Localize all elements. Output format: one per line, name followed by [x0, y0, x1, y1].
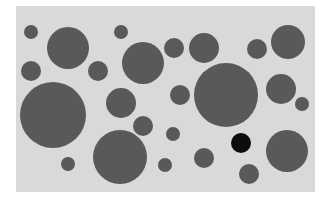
circle	[93, 130, 147, 184]
circle	[247, 39, 267, 59]
circle	[164, 38, 184, 58]
circle	[122, 42, 164, 84]
circle	[271, 25, 305, 59]
circle	[106, 88, 136, 118]
circle	[21, 61, 41, 81]
circle	[158, 158, 172, 172]
circle	[166, 127, 180, 141]
circle	[266, 74, 296, 104]
circle	[20, 82, 86, 148]
circle	[61, 157, 75, 171]
circles-layer	[0, 0, 332, 201]
circle	[88, 61, 108, 81]
figure	[0, 0, 332, 201]
circle	[170, 85, 190, 105]
circle	[133, 116, 153, 136]
circle	[295, 97, 309, 111]
circle	[266, 130, 308, 172]
circle	[194, 63, 258, 127]
circle	[24, 25, 38, 39]
circle	[47, 27, 89, 69]
highlighted-circle	[231, 133, 251, 153]
circle	[114, 25, 128, 39]
circle	[189, 33, 219, 63]
circle	[239, 164, 259, 184]
circle	[194, 148, 214, 168]
